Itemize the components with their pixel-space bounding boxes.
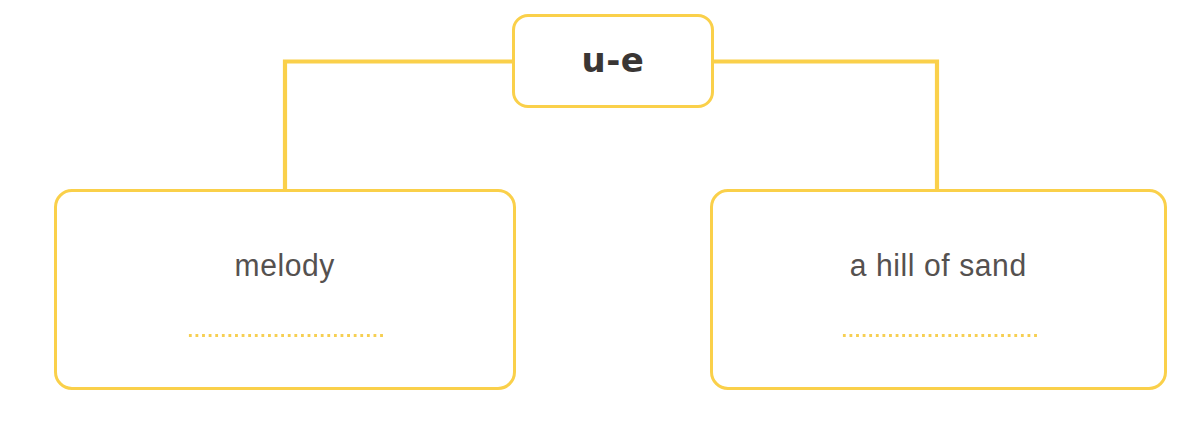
connector-left-path — [285, 62, 512, 192]
answer-box-right[interactable]: a hill of sand — [710, 189, 1167, 390]
connector-right-path — [714, 62, 937, 192]
writing-line-left[interactable] — [187, 333, 383, 338]
root-node-label: u-e — [582, 43, 645, 77]
writing-line-right[interactable] — [841, 333, 1037, 338]
root-node: u-e — [512, 14, 714, 108]
answer-label-left: melody — [235, 250, 335, 281]
answer-box-left[interactable]: melody — [54, 189, 516, 390]
worksheet-canvas: u-e melody a hill of sand — [0, 0, 1192, 421]
answer-label-right: a hill of sand — [850, 250, 1027, 281]
